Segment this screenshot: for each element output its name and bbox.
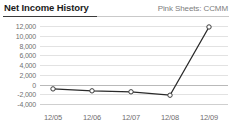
x-axis-tick-labels: 12/0512/0612/0712/0812/09 xyxy=(44,113,218,122)
data-point-marker xyxy=(207,25,211,29)
data-point-marker xyxy=(168,93,172,97)
x-axis-label: 12/07 xyxy=(122,113,140,122)
x-axis-label: 12/09 xyxy=(200,113,218,122)
chart-plot-area: 12,00010,0008,0006,0004,0002,0000-2,000-… xyxy=(0,19,232,125)
title-underline xyxy=(3,16,97,17)
gridlines xyxy=(40,27,228,105)
y-axis-label: -2,000 xyxy=(17,91,36,98)
x-axis-label: 12/06 xyxy=(83,113,101,122)
data-point-markers xyxy=(51,25,211,98)
net-income-line xyxy=(53,27,209,95)
ticker-label: Pink Sheets: CCMM xyxy=(158,2,228,14)
y-axis-label: 8,000 xyxy=(19,43,36,50)
y-axis-tick-labels: 12,00010,0008,0006,0004,0002,0000-2,000-… xyxy=(16,23,37,108)
y-axis-label: 0 xyxy=(32,82,36,89)
line-chart: 12,00010,0008,0006,0004,0002,0000-2,000-… xyxy=(0,19,232,125)
x-axis-label: 12/05 xyxy=(44,113,62,122)
y-axis-label: 12,000 xyxy=(16,23,37,30)
y-axis-label: 2,000 xyxy=(19,72,36,79)
y-axis-label: 10,000 xyxy=(16,33,37,40)
y-axis-label: -4,000 xyxy=(17,101,36,108)
x-axis-label: 12/08 xyxy=(161,113,179,122)
data-point-marker xyxy=(129,90,133,94)
data-point-marker xyxy=(90,89,94,93)
net-income-history-widget: Net Income History Pink Sheets: CCMM 12,… xyxy=(0,0,232,125)
data-point-marker xyxy=(51,87,55,91)
y-axis-label: 4,000 xyxy=(19,62,36,69)
y-axis-label: 6,000 xyxy=(19,52,36,59)
page-title: Net Income History xyxy=(4,2,89,13)
